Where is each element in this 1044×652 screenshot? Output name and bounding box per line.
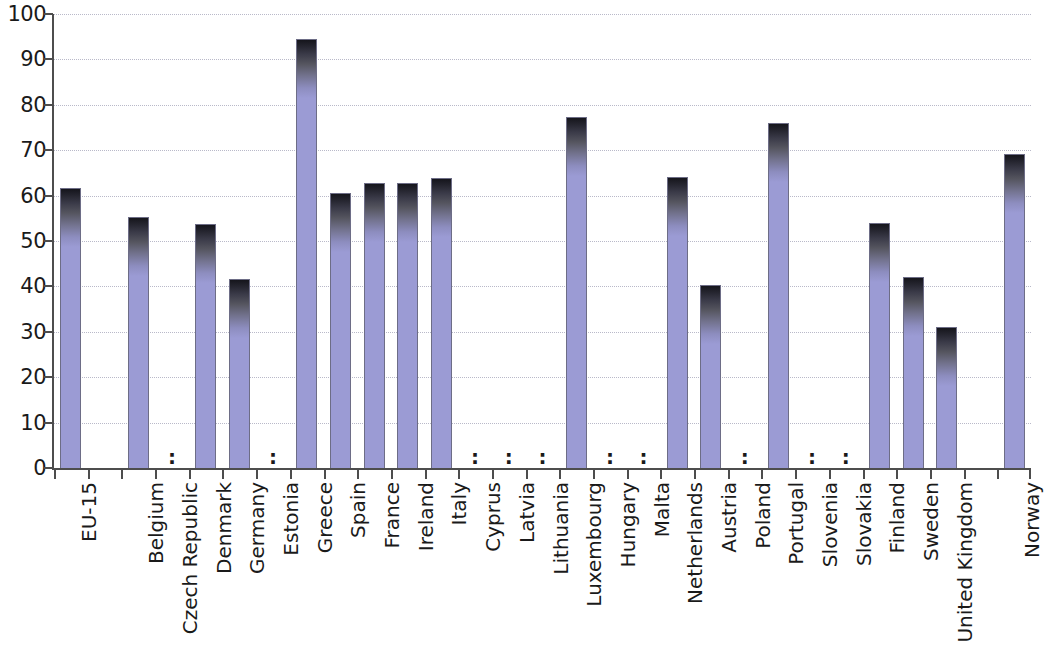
x-axis-category-label: Estonia: [281, 482, 301, 556]
x-axis-category-label: Netherlands: [685, 482, 705, 604]
x-axis-tick-mark: [896, 470, 898, 479]
x-axis-category-label: Hungary: [618, 482, 638, 567]
x-axis-category-label: Ireland: [416, 482, 436, 551]
x-axis-category-label: Portugal: [786, 482, 806, 565]
bar: [903, 277, 924, 469]
y-axis-tick-mark: [44, 376, 53, 378]
x-axis-tick-mark: [627, 470, 629, 479]
x-axis-tick-mark: [930, 470, 932, 479]
x-axis-category-label: Poland: [753, 482, 773, 549]
x-axis-category-label: Belgium: [146, 482, 166, 564]
x-axis-tick-mark: [795, 470, 797, 479]
y-axis-tick-label: 40: [0, 276, 46, 297]
bar: [364, 183, 385, 469]
y-axis-tick-mark: [44, 104, 53, 106]
x-axis-category-label: Luxembourg: [584, 482, 604, 607]
gridline: [54, 196, 1031, 197]
x-axis-category-label: Latvia: [517, 482, 537, 543]
x-axis-category-label: Cyprus: [483, 482, 503, 552]
gridline: [54, 105, 1031, 106]
missing-data-marker: :: [741, 447, 749, 467]
missing-data-marker: :: [269, 447, 277, 467]
x-axis-tick-mark: [761, 470, 763, 479]
x-axis-category-label: Italy: [449, 482, 469, 525]
missing-data-marker: :: [505, 447, 513, 467]
x-axis-category-label: Spain: [348, 482, 368, 538]
y-axis-tick-label: 50: [0, 231, 46, 252]
y-axis-tick-mark: [44, 240, 53, 242]
x-axis-tick-mark: [391, 470, 393, 479]
bar: [1004, 154, 1025, 469]
y-axis-tick-label: 80: [0, 94, 46, 115]
x-axis-tick-mark: [121, 470, 123, 479]
y-axis-tick-mark: [44, 331, 53, 333]
x-axis-category-label: Malta: [652, 482, 672, 537]
bar: [60, 188, 81, 469]
y-axis-tick-label: 70: [0, 140, 46, 161]
bar: [330, 193, 351, 469]
y-axis-tick-label: 90: [0, 49, 46, 70]
y-axis-tick-label: 0: [0, 458, 46, 479]
x-axis-tick-mark: [189, 470, 191, 479]
x-axis-category-label: Lithuania: [551, 482, 571, 575]
bar: [768, 123, 789, 469]
bar: [229, 279, 250, 469]
x-axis-tick-mark: [324, 470, 326, 479]
y-axis-tick-mark: [44, 58, 53, 60]
missing-data-marker: :: [640, 447, 648, 467]
bar: [195, 224, 216, 469]
x-axis-tick-mark: [425, 470, 427, 479]
y-axis-tick-mark: [44, 149, 53, 151]
bar: [296, 39, 317, 469]
x-axis-tick-mark: [290, 470, 292, 479]
x-axis-tick-mark: [964, 470, 966, 479]
bar: [397, 183, 418, 469]
x-axis-category-label: Germany: [247, 482, 267, 574]
x-axis-tick-mark: [829, 470, 831, 479]
x-axis-tick-mark: [728, 470, 730, 479]
missing-data-marker: :: [842, 447, 850, 467]
missing-data-marker: :: [168, 447, 176, 467]
x-axis-category-label: Norway: [1022, 482, 1042, 558]
x-axis-category-label: EU-15: [79, 482, 99, 542]
bar: [667, 177, 688, 469]
x-axis-tick-mark: [660, 470, 662, 479]
missing-data-marker: :: [606, 447, 614, 467]
x-axis-tick-mark: [997, 470, 999, 479]
x-axis-category-label: Austria: [719, 482, 739, 553]
bar: [700, 285, 721, 469]
x-axis-tick-mark: [863, 470, 865, 479]
x-axis-tick-mark: [54, 470, 56, 479]
missing-data-marker: :: [539, 447, 547, 467]
bar: [869, 223, 890, 469]
y-axis-tick-mark: [44, 195, 53, 197]
x-axis-tick-mark: [357, 470, 359, 479]
x-axis-category-label: Finland: [887, 482, 907, 553]
x-axis-tick-mark: [458, 470, 460, 479]
plot-area: ::::::::::: [54, 14, 1031, 469]
y-axis-tick-mark: [44, 467, 53, 469]
x-axis-category-label: United Kingdom: [955, 482, 975, 643]
x-axis-category-label: France: [382, 482, 402, 549]
x-axis-category-label: Czech Republic: [180, 482, 200, 634]
x-axis-category-label: Denmark: [214, 482, 234, 574]
x-axis-tick-mark: [559, 470, 561, 479]
y-axis-tick-mark: [44, 285, 53, 287]
y-axis-tick-mark: [44, 13, 53, 15]
x-axis-category-label: Greece: [315, 482, 335, 553]
bar: [128, 217, 149, 469]
missing-data-marker: :: [471, 447, 479, 467]
y-axis-tick-label: 10: [0, 412, 46, 433]
x-axis-category-label: Sweden: [921, 482, 941, 561]
bar: [936, 327, 957, 469]
y-axis-tick-labels: 0102030405060708090100: [0, 0, 46, 652]
x-axis-tick-mark: [593, 470, 595, 479]
x-axis-tick-mark: [256, 470, 258, 479]
x-axis-category-label: Slovenia: [820, 482, 840, 567]
gridline: [54, 14, 1031, 15]
x-axis-tick-mark: [694, 470, 696, 479]
x-axis-tick-mark: [1029, 470, 1031, 479]
y-axis-tick-label: 60: [0, 185, 46, 206]
bar: [431, 178, 452, 469]
